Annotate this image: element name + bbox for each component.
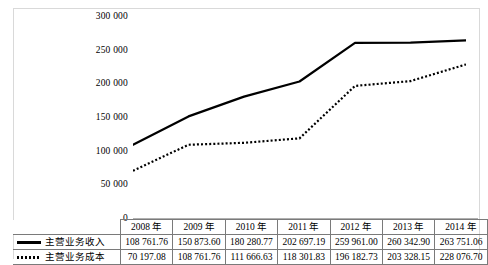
- table-cell: 196 182.73: [330, 250, 382, 265]
- table-column-header: 2010 年: [225, 220, 277, 235]
- table-cell: 228 076.70: [435, 250, 487, 265]
- table-column-header: 2008 年: [121, 220, 173, 235]
- dotted-line-swatch: [17, 256, 41, 259]
- table-cell: 108 761.76: [121, 235, 173, 250]
- solid-line-swatch: [17, 241, 41, 244]
- table-column-header: 2011 年: [278, 220, 330, 235]
- table-cell: 70 197.08: [121, 250, 173, 265]
- y-axis-tick-label: 50 000: [8, 179, 128, 189]
- table-cell: 260 342.90: [382, 235, 434, 250]
- table-row: 主营业务成本70 197.08108 761.76111 666.63118 3…: [13, 250, 487, 265]
- table-cell: 263 751.06: [435, 235, 487, 250]
- table-cell: 202 697.19: [278, 235, 330, 250]
- series-lines: [133, 16, 466, 218]
- table-cell: 180 280.77: [225, 235, 277, 250]
- table-row-label-cell: 主营业务收入: [13, 235, 121, 250]
- series-legend-label: 主营业务收入: [45, 237, 105, 248]
- table-cell: 259 961.00: [330, 235, 382, 250]
- table-cell: 203 328.15: [382, 250, 434, 265]
- line-main-business-revenue: [133, 40, 466, 144]
- table-column-header: 2012 年: [330, 220, 382, 235]
- table-cell: 150 873.60: [173, 235, 225, 250]
- table-column-header: 2009 年: [173, 220, 225, 235]
- table-column-header: 2014 年: [435, 220, 487, 235]
- table-cell: 118 301.83: [278, 250, 330, 265]
- y-axis-tick-label: 300 000: [8, 11, 128, 21]
- table-header-row: 2008 年2009 年2010 年2011 年2012 年2013 年2014…: [13, 220, 487, 235]
- table-body: 主营业务收入108 761.76150 873.60180 280.77202 …: [13, 235, 487, 265]
- table-cell: 108 761.76: [173, 250, 225, 265]
- table-row: 主营业务收入108 761.76150 873.60180 280.77202 …: [13, 235, 487, 250]
- data-table-wrap: 2008 年2009 年2010 年2011 年2012 年2013 年2014…: [13, 219, 478, 265]
- y-axis-tick-label: 250 000: [8, 45, 128, 55]
- data-table: 2008 年2009 年2010 年2011 年2012 年2013 年2014…: [13, 219, 488, 265]
- table-corner-cell: [13, 220, 121, 235]
- plot-area: [133, 16, 466, 218]
- table-row-label-cell: 主营业务成本: [13, 250, 121, 265]
- series-legend-label: 主营业务成本: [45, 252, 105, 263]
- y-axis-tick-label: 100 000: [8, 146, 128, 156]
- table-column-header: 2013 年: [382, 220, 434, 235]
- table-cell: 111 666.63: [225, 250, 277, 265]
- y-axis-tick-label: 200 000: [8, 78, 128, 88]
- y-axis-labels: 050 000100 000150 000200 000250 000300 0…: [0, 0, 128, 230]
- y-axis-tick-label: 150 000: [8, 112, 128, 122]
